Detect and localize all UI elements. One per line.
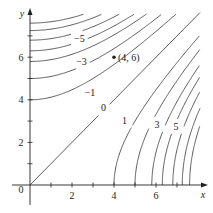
contour-negative-2 [30,15,161,79]
point-marker-icon [112,55,116,59]
contour-zero-lower [30,115,99,185]
origin-label: 0 [19,184,24,195]
contour-positive-7 [190,126,200,185]
y-tick-label: 2 [19,137,24,148]
y-axis-label: y [19,8,25,19]
x-tick-label: 6 [154,190,159,201]
contour-label: −5 [74,33,85,44]
marked-points: (4, 6) [112,52,139,64]
contour-label: 1 [122,115,127,126]
contour-positive-4 [162,77,199,185]
contour-negative-7 [30,14,84,23]
contour-label: 5 [173,121,178,132]
contour-plot: 2462460xy 0135−1−3−5 (4, 6) [0,0,213,213]
contour-label: −3 [76,56,87,67]
contour-label: 3 [155,119,160,130]
contour-negative-1 [30,14,176,100]
x-tick-label: 4 [112,190,117,201]
contour-positive-5 [173,92,200,185]
y-tick-label: 6 [19,52,24,63]
contour-positive-6 [182,108,200,185]
x-axis-label: x [200,189,206,200]
contour-positive-2 [135,50,200,185]
contour-label: −1 [85,87,96,98]
y-axis-arrow-icon [28,8,33,15]
x-tick-label: 2 [70,190,75,201]
contour-label-0: 0 [101,102,106,113]
y-tick-label: 4 [19,94,24,105]
contour-curves [30,13,200,185]
point-label: (4, 6) [118,52,140,64]
x-axis-arrow-icon [201,183,208,188]
